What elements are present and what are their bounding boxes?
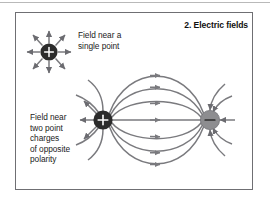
label-single-point: Field near a single point xyxy=(78,30,121,51)
top-rule xyxy=(0,2,270,3)
figure-title: 2. Electric fields xyxy=(184,20,248,30)
label-dipole: Field near two point charges of opposite… xyxy=(30,112,70,165)
